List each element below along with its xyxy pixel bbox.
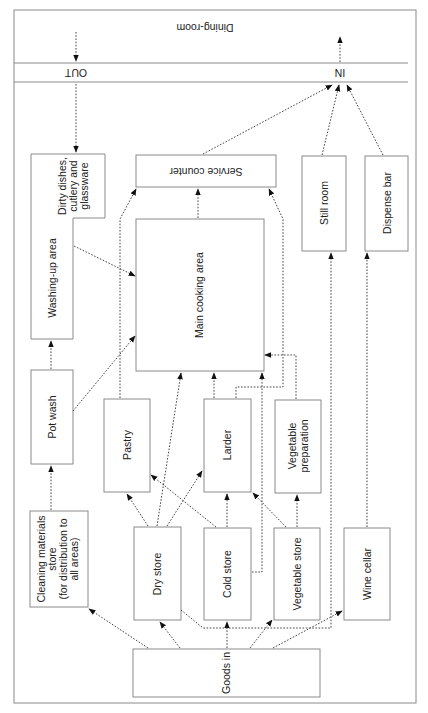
dirty-dishes-label: glassware — [78, 162, 90, 209]
svg-text:Pot wash: Pot wash — [46, 395, 58, 438]
svg-text:Main cooking area: Main cooking area — [193, 252, 205, 338]
in-label: IN — [335, 67, 346, 79]
svg-text:preparation: preparation — [298, 419, 310, 472]
node-washing-up-area: Washing-up area Dirty dishes, cutlery an… — [31, 154, 105, 339]
node-vegetable-preparation: Vegetable preparation — [275, 400, 321, 493]
svg-text:Cold store: Cold store — [221, 550, 233, 598]
kitchen-flow-diagram: Dining-room IN OUT Goods in Cleaning mat… — [0, 0, 428, 713]
node-larder: Larder — [204, 399, 251, 492]
svg-text:Washing-up area: Washing-up area — [46, 238, 58, 318]
node-cold-store: Cold store — [204, 528, 251, 620]
node-vegetable-store: Vegetable store — [274, 528, 320, 620]
svg-text:Service counter: Service counter — [169, 166, 242, 178]
svg-text:all areas): all areas) — [68, 537, 80, 580]
dining-room-label: Dining-room — [176, 22, 233, 34]
svg-text:Dispense bar: Dispense bar — [381, 172, 393, 234]
svg-text:Dry store: Dry store — [151, 553, 163, 596]
svg-text:Still room: Still room — [318, 181, 330, 225]
svg-text:Pastry: Pastry — [121, 429, 133, 460]
svg-text:Vegetable store: Vegetable store — [291, 537, 303, 610]
node-service-counter: Service counter — [136, 155, 276, 187]
node-cleaning-materials-store: Cleaning materials store (for distributi… — [30, 511, 88, 607]
node-goods-in: Goods in — [133, 649, 320, 697]
svg-text:Goods in: Goods in — [220, 652, 232, 694]
out-label: OUT — [64, 67, 87, 79]
node-still-room: Still room — [302, 156, 346, 251]
node-dispense-bar: Dispense bar — [365, 156, 408, 251]
svg-text:Vegetable: Vegetable — [286, 422, 298, 469]
node-pastry: Pastry — [104, 399, 150, 492]
node-main-cooking-area: Main cooking area — [136, 219, 264, 371]
svg-text:Wine cellar: Wine cellar — [361, 548, 373, 600]
svg-text:Larder: Larder — [221, 429, 233, 460]
node-wine-cellar: Wine cellar — [344, 528, 390, 620]
node-dry-store: Dry store — [134, 527, 181, 620]
node-pot-wash: Pot wash — [31, 370, 73, 464]
